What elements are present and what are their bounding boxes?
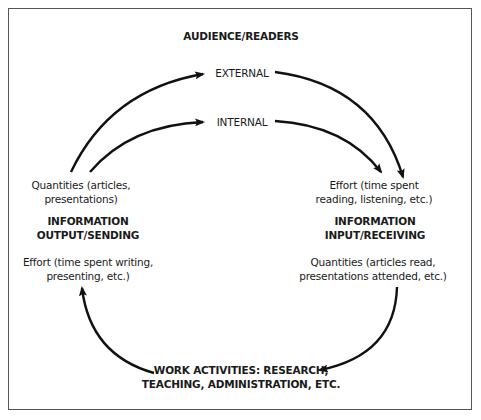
input-quantities-line1: Quantities (articles read,: [299, 255, 447, 269]
arrow-internal-to-input: [275, 121, 381, 172]
output-effort-line2: presenting, etc.): [23, 269, 153, 283]
input-heading-line1: INFORMATION: [325, 214, 425, 228]
output-heading-line2: OUTPUT/SENDING: [37, 228, 140, 242]
arrow-output-to-internal: [90, 122, 203, 172]
output-heading-line1: INFORMATION: [37, 214, 140, 228]
input-effort: Effort (time spent reading, listening, e…: [316, 178, 433, 206]
audience-internal: INTERNAL: [217, 115, 268, 129]
input-quantities: Quantities (articles read, presentations…: [299, 255, 447, 283]
output-quantities-line2: presentations): [32, 192, 131, 206]
input-effort-line1: Effort (time spent: [316, 178, 433, 192]
work-activities-line1: WORK ACTIVITIES: RESEARCH,: [142, 363, 340, 377]
flow-arrows: [0, 0, 481, 420]
output-quantities-line1: Quantities (articles,: [32, 178, 131, 192]
arrow-external-to-input: [275, 72, 403, 177]
arrow-input-to-work: [320, 287, 397, 370]
output-quantities: Quantities (articles, presentations): [32, 178, 131, 206]
input-effort-line2: reading, listening, etc.): [316, 192, 433, 206]
work-activities-line2: TEACHING, ADMINISTRATION, ETC.: [142, 377, 340, 391]
output-heading: INFORMATION OUTPUT/SENDING: [37, 214, 140, 242]
audience-title: AUDIENCE/READERS: [183, 29, 298, 43]
input-heading-line2: INPUT/RECEIVING: [325, 228, 425, 242]
arrow-work-to-output: [82, 288, 154, 373]
output-effort: Effort (time spent writing, presenting, …: [23, 255, 153, 283]
audience-external: EXTERNAL: [215, 66, 268, 80]
work-activities: WORK ACTIVITIES: RESEARCH, TEACHING, ADM…: [142, 363, 340, 391]
input-quantities-line2: presentations attended, etc.): [299, 269, 447, 283]
output-effort-line1: Effort (time spent writing,: [23, 255, 153, 269]
input-heading: INFORMATION INPUT/RECEIVING: [325, 214, 425, 242]
